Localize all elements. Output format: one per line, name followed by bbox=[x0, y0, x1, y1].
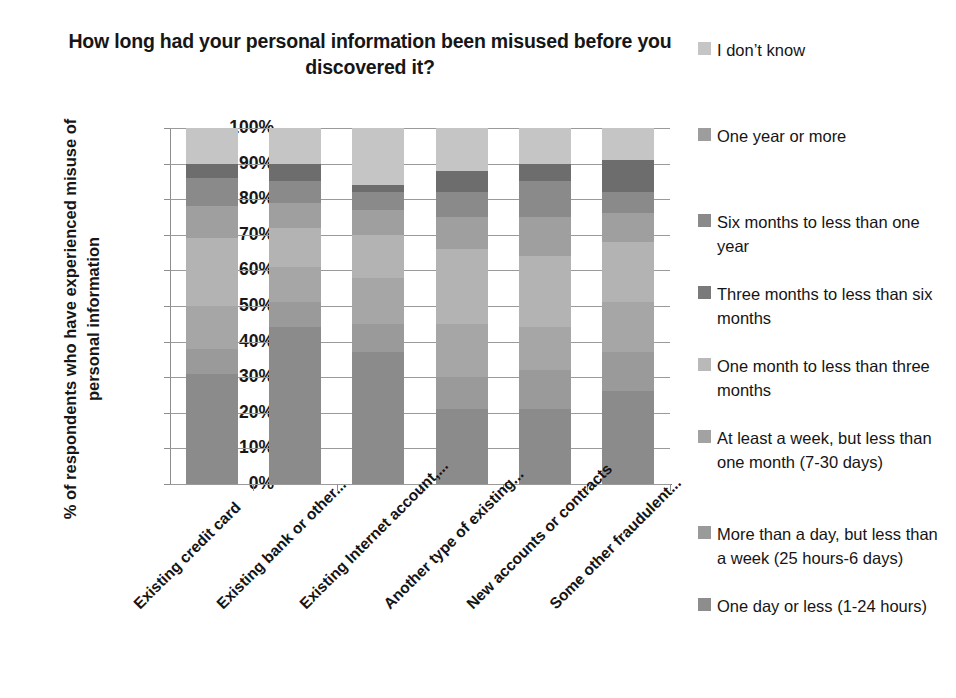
bar-segment bbox=[186, 238, 238, 306]
y-axis-tick bbox=[164, 306, 170, 307]
bar-segment bbox=[352, 210, 404, 235]
legend-swatch-at-least-a-week-icon bbox=[698, 430, 711, 443]
bar-segment bbox=[352, 235, 404, 278]
bar-segment bbox=[519, 181, 571, 217]
legend-item[interactable]: At least a week, but less than one month… bbox=[698, 426, 944, 474]
bar-segment bbox=[269, 164, 321, 182]
bar-segment bbox=[519, 409, 571, 484]
y-axis-tick bbox=[164, 235, 170, 236]
gridline bbox=[170, 164, 670, 165]
gridline bbox=[170, 235, 670, 236]
stacked-bar bbox=[186, 128, 238, 484]
gridline bbox=[170, 342, 670, 343]
bar-segment bbox=[602, 160, 654, 192]
y-axis-tick bbox=[164, 199, 170, 200]
bar-segment bbox=[186, 206, 238, 238]
legend-swatch-more-than-a-day-icon bbox=[698, 526, 711, 539]
bar-segment bbox=[269, 267, 321, 303]
bar-segment bbox=[519, 164, 571, 182]
y-axis-tick bbox=[164, 448, 170, 449]
gridline bbox=[170, 377, 670, 378]
legend-item[interactable]: One year or more bbox=[698, 124, 944, 148]
chart-title: How long had your personal information b… bbox=[62, 28, 678, 80]
bar-segment bbox=[436, 217, 488, 249]
chart-container: How long had your personal information b… bbox=[0, 0, 956, 698]
bar-segment bbox=[186, 164, 238, 178]
bar-segment bbox=[352, 128, 404, 185]
legend-item-label: I don’t know bbox=[717, 38, 805, 62]
stacked-bar bbox=[269, 128, 321, 484]
legend-swatch-one-day-or-less-icon bbox=[698, 598, 711, 611]
legend-item-label: One month to less than three months bbox=[717, 354, 944, 402]
legend-item-label: At least a week, but less than one month… bbox=[717, 426, 944, 474]
y-axis-tick bbox=[164, 413, 170, 414]
gridline bbox=[170, 448, 670, 449]
y-axis-title: % of respondents who have experienced mi… bbox=[59, 89, 105, 549]
legend-item[interactable]: One month to less than three months bbox=[698, 354, 944, 402]
y-axis-tick bbox=[164, 484, 170, 485]
bar-segment bbox=[436, 171, 488, 192]
bar-segment bbox=[602, 242, 654, 303]
bar-segment bbox=[269, 128, 321, 164]
legend-item[interactable]: Six months to less than one year bbox=[698, 210, 944, 258]
gridline bbox=[170, 413, 670, 414]
stacked-bar bbox=[519, 128, 571, 484]
x-axis-category-label: Existing bank or other... bbox=[213, 476, 350, 613]
bar-segment bbox=[602, 302, 654, 352]
gridline bbox=[170, 199, 670, 200]
bar-segment bbox=[519, 256, 571, 327]
legend-item[interactable]: More than a day, but less than a week (2… bbox=[698, 522, 944, 570]
legend-item[interactable]: I don’t know bbox=[698, 38, 944, 62]
gridline bbox=[170, 306, 670, 307]
legend-item-label: One day or less (1-24 hours) bbox=[717, 594, 927, 618]
x-axis-tick bbox=[253, 484, 254, 491]
y-axis-tick bbox=[164, 342, 170, 343]
bar-segment bbox=[269, 302, 321, 327]
legend-item-label: Three months to less than six months bbox=[717, 282, 944, 330]
bar-segment bbox=[436, 192, 488, 217]
gridline bbox=[170, 128, 670, 129]
bar-segment bbox=[186, 128, 238, 164]
bar-segment bbox=[352, 278, 404, 324]
bar-segment bbox=[602, 192, 654, 213]
legend-swatch-six-months-icon bbox=[698, 214, 711, 227]
legend-item-label: More than a day, but less than a week (2… bbox=[717, 522, 944, 570]
bar-segment bbox=[436, 128, 488, 171]
y-axis-tick bbox=[164, 128, 170, 129]
bar-segment bbox=[269, 228, 321, 267]
x-axis-category-label: Another type of existing... bbox=[380, 465, 527, 612]
bar-segment bbox=[269, 203, 321, 228]
plot-area bbox=[170, 128, 670, 484]
legend-swatch-i-dont-know-icon bbox=[698, 42, 711, 55]
bar-segment bbox=[352, 352, 404, 484]
bar-segment bbox=[352, 192, 404, 210]
y-axis-tick bbox=[164, 270, 170, 271]
legend-swatch-one-month-icon bbox=[698, 358, 711, 371]
bar-segment bbox=[186, 306, 238, 349]
bar-segment bbox=[602, 128, 654, 160]
bar-segment bbox=[519, 217, 571, 256]
legend-item-label: One year or more bbox=[717, 124, 846, 148]
stacked-bar bbox=[602, 128, 654, 484]
y-axis-tick bbox=[164, 377, 170, 378]
bar-segment bbox=[352, 324, 404, 352]
bar-segment bbox=[186, 374, 238, 484]
bar-segment bbox=[436, 249, 488, 324]
stacked-bar bbox=[352, 128, 404, 484]
bar-segment bbox=[519, 370, 571, 409]
bar-segment bbox=[269, 181, 321, 202]
y-axis-tick bbox=[164, 164, 170, 165]
gridline bbox=[170, 270, 670, 271]
legend-item-label: Six months to less than one year bbox=[717, 210, 944, 258]
legend-item[interactable]: One day or less (1-24 hours) bbox=[698, 594, 944, 618]
bar-segment bbox=[602, 213, 654, 241]
bar-segment bbox=[186, 349, 238, 374]
legend-swatch-three-months-icon bbox=[698, 286, 711, 299]
legend-item[interactable]: Three months to less than six months bbox=[698, 282, 944, 330]
bar-segment bbox=[352, 185, 404, 192]
legend-swatch-one-year-or-more-icon bbox=[698, 128, 711, 141]
bar-segment bbox=[436, 377, 488, 409]
bar-segment bbox=[519, 327, 571, 370]
bar-segment bbox=[269, 327, 321, 484]
bar-segment bbox=[602, 352, 654, 391]
